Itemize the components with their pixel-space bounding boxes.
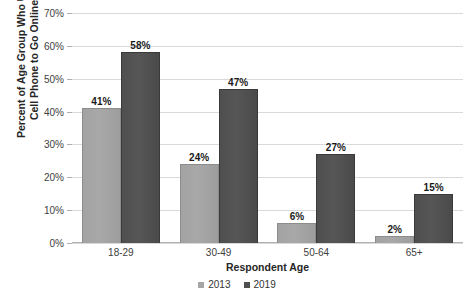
bar-2019-65+[interactable]: 15% bbox=[414, 194, 453, 243]
bar-value-label: 47% bbox=[228, 77, 248, 88]
x-tick-label-65+: 65+ bbox=[365, 247, 463, 258]
bar-2013-30-49[interactable]: 24% bbox=[180, 164, 219, 243]
y-tick-label: 0% bbox=[4, 238, 64, 249]
y-tick-label: 40% bbox=[4, 106, 64, 117]
y-tick-mark bbox=[67, 13, 72, 14]
legend-item-2013[interactable]: 2013 bbox=[198, 279, 230, 290]
bar-value-label: 24% bbox=[189, 152, 209, 163]
plot-area: 41%58%24%47%6%27%2%15% bbox=[72, 13, 463, 243]
bar-value-label: 2% bbox=[387, 224, 401, 235]
y-tick-label: 20% bbox=[4, 172, 64, 183]
y-tick-label: 10% bbox=[4, 205, 64, 216]
bar-group: 41%58% bbox=[82, 13, 160, 243]
y-tick-label: 30% bbox=[4, 139, 64, 150]
chart-title bbox=[0, 0, 474, 2]
bar-2013-18-29[interactable]: 41% bbox=[82, 108, 121, 243]
y-tick-mark bbox=[67, 210, 72, 211]
bar-group: 24%47% bbox=[180, 13, 258, 243]
legend-swatch-icon bbox=[198, 282, 204, 288]
y-tick-mark bbox=[67, 79, 72, 80]
y-tick-label: 60% bbox=[4, 40, 64, 51]
x-axis-title: Respondent Age bbox=[72, 261, 463, 273]
y-tick-mark bbox=[67, 112, 72, 113]
bar-value-label: 27% bbox=[326, 142, 346, 153]
bar-2013-50-64[interactable]: 6% bbox=[277, 223, 316, 243]
y-tick-mark bbox=[67, 177, 72, 178]
legend-item-2019[interactable]: 2019 bbox=[244, 279, 276, 290]
y-tick-mark bbox=[67, 144, 72, 145]
y-tick-label: 70% bbox=[4, 8, 64, 19]
legend-swatch-icon bbox=[244, 282, 250, 288]
x-tick-label-30-49: 30-49 bbox=[170, 247, 268, 258]
bar-group: 6%27% bbox=[277, 13, 355, 243]
y-tick-label: 50% bbox=[4, 73, 64, 84]
x-tick-label-18-29: 18-29 bbox=[72, 247, 170, 258]
bar-group: 2%15% bbox=[375, 13, 453, 243]
bar-value-label: 15% bbox=[424, 182, 444, 193]
bar-value-label: 41% bbox=[91, 96, 111, 107]
bar-value-label: 6% bbox=[290, 211, 304, 222]
bar-2019-50-64[interactable]: 27% bbox=[316, 154, 355, 243]
y-tick-mark bbox=[67, 243, 72, 244]
chart-legend: 20132019 bbox=[0, 279, 474, 290]
y-tick-mark bbox=[67, 46, 72, 47]
gridline bbox=[72, 243, 463, 244]
bar-value-label: 58% bbox=[130, 40, 150, 51]
bar-chart: Percent of Age Group Who Use Cell Phone … bbox=[0, 0, 474, 297]
bar-2019-30-49[interactable]: 47% bbox=[219, 89, 258, 243]
legend-label: 2019 bbox=[254, 279, 276, 290]
legend-label: 2013 bbox=[208, 279, 230, 290]
y-axis-title-line1: Percent of Age Group Who Use bbox=[15, 0, 27, 138]
bar-2019-18-29[interactable]: 58% bbox=[121, 52, 160, 243]
bar-2013-65+[interactable]: 2% bbox=[375, 236, 414, 243]
x-tick-label-50-64: 50-64 bbox=[268, 247, 366, 258]
